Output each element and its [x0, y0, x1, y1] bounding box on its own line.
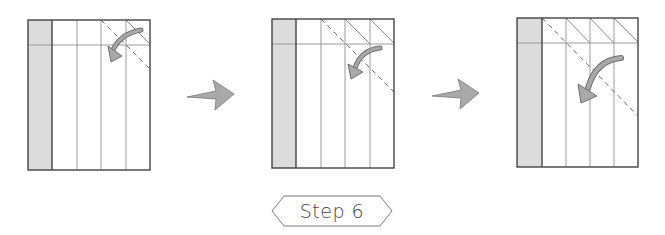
fold-arrow-icon — [348, 48, 380, 79]
folded-corner-edge — [590, 18, 614, 43]
transition-arrow-icon — [432, 79, 479, 109]
folded-corner-edge — [370, 19, 394, 43]
folded-corner-edge — [566, 18, 590, 43]
panel-2 — [272, 19, 394, 168]
valley-fold-line — [321, 19, 394, 92]
panel-1 — [28, 20, 150, 170]
step-label: Step 6 — [262, 193, 402, 229]
shaded-strip — [517, 18, 542, 167]
step-title: Step 6 — [262, 193, 402, 229]
fold-arrow-icon — [108, 30, 141, 62]
shaded-strip — [272, 19, 296, 168]
folded-corner-edge — [345, 19, 370, 44]
shaded-strip — [28, 20, 52, 170]
fold-arrow-icon — [578, 58, 621, 103]
panel-3 — [517, 18, 638, 167]
transition-arrow-icon — [187, 80, 234, 110]
folded-corner-edge — [614, 18, 638, 42]
